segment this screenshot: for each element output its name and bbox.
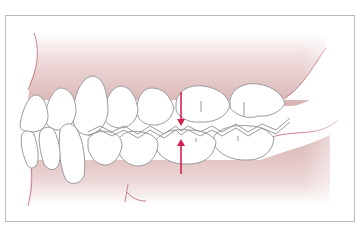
dental-occlusion-diagram [0, 0, 356, 228]
diagram-svg [0, 0, 356, 228]
fade-overlay [6, 16, 354, 221]
